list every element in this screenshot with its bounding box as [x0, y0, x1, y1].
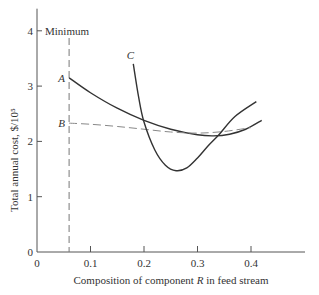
axes — [37, 9, 305, 252]
curves — [69, 64, 262, 171]
x-tick-label: 0 — [34, 257, 40, 269]
labels: 0123400.10.20.30.4MinimumABCComposition … — [8, 25, 269, 286]
x-axis-title: Composition of component R in feed strea… — [74, 274, 269, 286]
y-tick-label: 2 — [28, 135, 34, 147]
cost-vs-composition-chart: 0123400.10.20.30.4MinimumABCComposition … — [0, 0, 319, 295]
curve-label-c: C — [127, 49, 135, 61]
y-axis-title: Total annual cost, $/10⁵ — [8, 108, 20, 212]
y-tick-label: 4 — [28, 25, 34, 37]
curve-label-b: B — [58, 117, 65, 129]
y-tick-label: 1 — [28, 191, 34, 203]
x-tick-label: 0.4 — [244, 257, 258, 269]
x-tick-label: 0.1 — [84, 257, 98, 269]
curve-label-a: A — [57, 72, 65, 84]
minimum-label: Minimum — [45, 25, 89, 37]
y-tick-label: 0 — [28, 246, 34, 258]
x-tick-label: 0.2 — [137, 257, 151, 269]
curve-c — [133, 64, 256, 171]
y-tick-label: 3 — [28, 80, 34, 92]
curve-a — [69, 78, 262, 136]
x-tick-label: 0.3 — [191, 257, 205, 269]
